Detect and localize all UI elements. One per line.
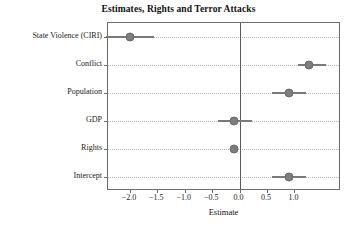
y-axis-tick <box>104 37 108 38</box>
data-point[interactable] <box>125 33 134 42</box>
chart-title: Estimates, Rights and Terror Attacks <box>0 4 357 14</box>
x-axis-title: Estimate <box>107 207 340 217</box>
data-point[interactable] <box>229 117 238 126</box>
x-axis-tick-label: −2.0 <box>122 194 137 202</box>
x-axis-tick-label: −1.0 <box>176 194 191 202</box>
chart-figure: Estimates, Rights and Terror Attacks Sta… <box>0 0 357 229</box>
zero-reference-line <box>240 23 241 189</box>
y-axis-label: Intercept <box>74 172 102 180</box>
data-point[interactable] <box>284 173 293 182</box>
data-point[interactable] <box>284 89 293 98</box>
y-axis-label: GDP <box>86 116 102 124</box>
y-axis-label: Population <box>67 88 102 96</box>
data-point[interactable] <box>305 61 314 70</box>
y-axis-tick <box>104 93 108 94</box>
x-axis-tick-label: −1.5 <box>149 194 164 202</box>
x-axis-tick-label: 1.0 <box>288 194 298 202</box>
y-axis-tick <box>104 121 108 122</box>
x-axis-tick-label: 0.0 <box>234 194 244 202</box>
y-axis-label: Rights <box>81 144 102 152</box>
grid-line <box>108 149 339 150</box>
y-axis-label: State Violence (CIRI) <box>32 32 102 40</box>
y-axis-tick <box>104 177 108 178</box>
data-point[interactable] <box>229 145 238 154</box>
y-axis-label: Conflict <box>76 60 102 68</box>
x-axis-tick-label: −0.5 <box>204 194 219 202</box>
y-axis-tick <box>104 65 108 66</box>
plot-area <box>107 22 340 190</box>
y-axis-tick <box>104 149 108 150</box>
x-axis-tick-label: 0.5 <box>261 194 271 202</box>
